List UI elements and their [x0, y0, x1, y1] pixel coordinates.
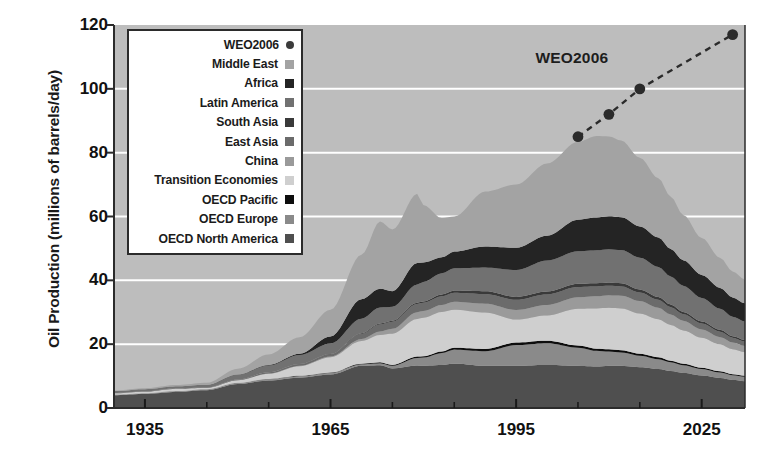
plot-area	[0, 0, 757, 461]
legend-swatch-icon	[285, 137, 294, 146]
legend-item-transition-economies[interactable]: Transition Economies	[136, 171, 294, 190]
x-tick-label-1935: 1935	[126, 421, 164, 438]
legend-item-label: OECD North America	[159, 232, 278, 246]
legend-item-east-asia[interactable]: East Asia	[136, 132, 294, 151]
legend-swatch-icon	[285, 234, 294, 243]
legend-item-oecd-pacific[interactable]: OECD Pacific	[136, 190, 294, 209]
legend-swatch-icon	[285, 60, 294, 69]
legend-item-latin-america[interactable]: Latin America	[136, 93, 294, 112]
x-axis-ticks: 1935196519952025	[0, 415, 757, 455]
legend-swatch-icon	[285, 98, 294, 107]
legend-item-label: Africa	[244, 76, 278, 90]
legend-item-weo2006[interactable]: WEO2006	[136, 35, 294, 54]
legend-item-oecd-north-america[interactable]: OECD North America	[136, 229, 294, 248]
legend-swatch-icon	[285, 215, 294, 224]
projection-marker	[634, 83, 645, 94]
legend-swatch-icon	[285, 157, 294, 166]
legend-item-label: OECD Pacific	[202, 193, 278, 207]
projection-marker	[604, 109, 615, 120]
chart-legend: WEO2006Middle EastAfricaLatin AmericaSou…	[127, 29, 303, 255]
legend-dot-icon	[286, 41, 294, 49]
legend-swatch-icon	[285, 118, 294, 127]
legend-item-middle-east[interactable]: Middle East	[136, 54, 294, 73]
legend-item-africa[interactable]: Africa	[136, 74, 294, 93]
legend-item-label: Transition Economies	[154, 173, 278, 187]
legend-swatch-icon	[285, 79, 294, 88]
weo2006-annotation: WEO2006	[535, 49, 608, 67]
legend-item-oecd-europe[interactable]: OECD Europe	[136, 210, 294, 229]
projection-marker	[573, 131, 584, 142]
legend-swatch-icon	[285, 176, 294, 185]
legend-item-label: East Asia	[225, 135, 278, 149]
x-tick-label-1965: 1965	[312, 421, 350, 438]
legend-item-label: OECD Europe	[199, 212, 278, 226]
x-tick-label-2025: 2025	[683, 421, 721, 438]
legend-item-label: Middle East	[212, 57, 278, 71]
legend-item-label: South Asia	[216, 115, 278, 129]
legend-swatch-icon	[285, 195, 294, 204]
legend-item-south-asia[interactable]: South Asia	[136, 113, 294, 132]
x-tick-label-1995: 1995	[497, 421, 535, 438]
projection-marker	[727, 29, 738, 40]
legend-item-label: Latin America	[200, 96, 278, 110]
chart-figure: Oil Production (millions of barrels/day)…	[0, 0, 757, 461]
legend-item-label: China	[245, 154, 278, 168]
legend-item-china[interactable]: China	[136, 151, 294, 170]
legend-item-label: WEO2006	[224, 38, 279, 52]
